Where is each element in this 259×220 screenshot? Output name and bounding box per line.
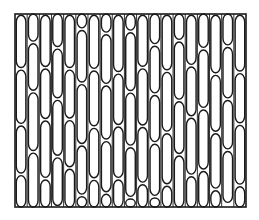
cell [150,96,160,142]
cell [89,71,99,126]
cell [41,69,51,118]
cell [150,14,160,44]
cell [138,128,148,183]
cell [126,199,136,207]
cell [89,180,99,207]
cell [150,198,160,207]
cells-group [16,14,244,207]
cell [199,172,209,207]
cell [223,100,233,148]
cell [53,14,63,47]
cell [162,134,172,184]
cell [162,186,172,207]
cell [150,46,160,93]
cell [126,93,136,145]
cell [101,86,111,139]
cell [187,67,197,116]
cell [114,127,124,177]
cell [65,15,75,67]
cell [89,15,99,68]
cell [187,177,197,207]
cell [126,148,136,197]
cell [65,121,75,167]
cell [138,15,148,66]
cell [223,14,233,45]
cell [126,14,136,30]
cell [235,187,245,207]
cell [53,100,63,155]
cell [101,142,111,192]
cell [53,49,63,98]
cell [162,72,172,131]
cell [41,121,51,177]
cell [41,15,51,66]
cell [235,125,245,184]
cell [65,169,75,207]
cell [138,185,148,207]
cell [101,35,111,84]
cell [138,69,148,125]
cell [199,14,209,47]
cell [65,70,75,118]
cell [41,180,51,207]
cell [89,128,99,177]
cell [126,33,136,91]
cell [28,14,38,41]
cell [211,191,221,207]
cell [211,134,221,188]
cell [77,146,87,194]
cell [114,180,124,207]
cell [16,176,26,207]
cell [223,47,233,97]
cell [16,70,26,123]
cell [77,85,87,144]
cell [114,15,124,71]
cell [77,14,87,28]
cell [114,74,124,124]
cell [101,14,111,32]
cell [162,15,172,69]
epidermal-cells-drawing [0,0,259,220]
cell [16,126,26,173]
cell [187,118,197,174]
cell [211,75,221,131]
cell [77,197,87,207]
cell [28,44,38,91]
cell [174,102,184,154]
cell [223,151,233,202]
cell [28,153,38,207]
cell [101,194,111,207]
cell [174,42,184,99]
cell [174,14,184,39]
cell [174,156,184,207]
cell [187,15,197,64]
cell [235,74,245,123]
cell [235,15,245,71]
cell [53,158,63,206]
cell [150,144,160,195]
cell [28,93,38,151]
cell [16,15,26,67]
cell [199,110,209,169]
cell-tissue-diagram [0,0,259,220]
cell [211,15,221,72]
cell [77,30,87,82]
cell [199,50,209,107]
